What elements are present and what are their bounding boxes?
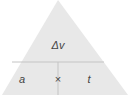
delta-v-label: Δv	[52, 39, 65, 51]
time-label: t	[87, 73, 90, 85]
acceleration-label: a	[19, 73, 25, 85]
multiply-operator: ×	[55, 73, 61, 85]
